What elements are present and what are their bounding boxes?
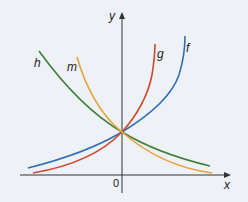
origin-label: 0 xyxy=(113,177,119,189)
y-axis-arrow-icon xyxy=(119,12,125,19)
curve-label-g: g xyxy=(157,47,164,61)
y-axis-label: y xyxy=(108,9,116,23)
axes xyxy=(20,12,231,193)
curve-h xyxy=(39,51,210,166)
curve-label-f: f xyxy=(186,41,191,55)
x-axis-label: x xyxy=(223,178,231,192)
exponential-graphs-chart: y x 0 f g h m xyxy=(0,0,248,202)
curve-label-h: h xyxy=(34,56,41,70)
curve-g xyxy=(33,44,155,173)
curve-label-m: m xyxy=(67,60,77,74)
